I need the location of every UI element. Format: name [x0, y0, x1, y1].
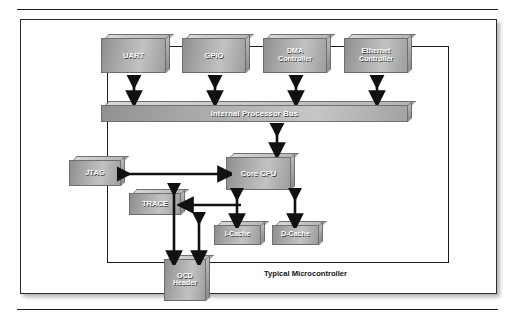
arrow-trace-ocd: [186, 212, 212, 265]
dma-bevel-side: [327, 34, 331, 73]
block-uart[interactable]: UART: [101, 38, 166, 73]
arrow-ethernet-bus: [359, 75, 395, 105]
bottom-rule: [17, 309, 498, 310]
arrow-cpu-icache: [224, 188, 250, 228]
ocd-face: OCD Header: [164, 259, 206, 301]
dcache-face: D-Cache: [272, 225, 319, 245]
arrow-uart-bus: [116, 75, 152, 105]
dma-label-line2: Controller: [278, 56, 312, 63]
dcache-label: D-Cache: [281, 231, 310, 238]
ethernet-label-line2: Controller: [359, 56, 393, 63]
jtag-label: JTAG: [85, 169, 105, 177]
arrow-bus-cpu: [259, 123, 295, 157]
arrow-cpu-dcache: [282, 188, 308, 228]
top-rule: [17, 9, 498, 10]
arrow-gpio-bus: [197, 75, 233, 105]
gpio-bevel-side: [246, 34, 250, 73]
arrow-dma-bus: [278, 75, 314, 105]
uart-bevel-side: [166, 34, 170, 73]
uart-label: UART: [123, 52, 144, 60]
diagram-caption: Typical Microcontroller: [264, 269, 347, 278]
block-jtag[interactable]: JTAG: [69, 160, 121, 186]
block-core-cpu[interactable]: Core CPU: [226, 157, 291, 190]
dma-face: DMA Controller: [263, 38, 327, 73]
ocd-label-line2: Header: [173, 280, 197, 287]
jtag-face: JTAG: [69, 160, 121, 186]
block-ethernet-controller[interactable]: Ethernet Controller: [344, 38, 408, 73]
bus-face: Internal Processor Bus: [101, 105, 408, 122]
block-d-cache[interactable]: D-Cache: [272, 225, 319, 245]
cpu-label: Core CPU: [241, 170, 276, 178]
icache-bevel-side: [261, 221, 265, 245]
figure-container: UART GPIO DMA Controller: [0, 0, 515, 321]
icache-face: I-Cache: [214, 225, 261, 245]
block-dma-controller[interactable]: DMA Controller: [263, 38, 327, 73]
cpu-face: Core CPU: [226, 157, 291, 190]
uart-face: UART: [101, 38, 166, 73]
block-i-cache[interactable]: I-Cache: [214, 225, 261, 245]
gpio-label: GPIO: [205, 52, 224, 60]
arrow-jtag-ocd: [161, 183, 187, 265]
block-internal-processor-bus[interactable]: Internal Processor Bus: [101, 105, 408, 122]
dcache-bevel-side: [319, 221, 323, 245]
block-ocd-header[interactable]: OCD Header: [164, 259, 206, 301]
figure-panel: UART GPIO DMA Controller: [20, 19, 497, 294]
ethernet-bevel-side: [408, 34, 412, 73]
ethernet-face: Ethernet Controller: [344, 38, 408, 73]
cpu-bevel-side: [291, 153, 295, 190]
icache-label: I-Cache: [225, 231, 251, 238]
bus-label: Internal Processor Bus: [211, 110, 299, 118]
block-gpio[interactable]: GPIO: [182, 38, 246, 73]
gpio-face: GPIO: [182, 38, 246, 73]
